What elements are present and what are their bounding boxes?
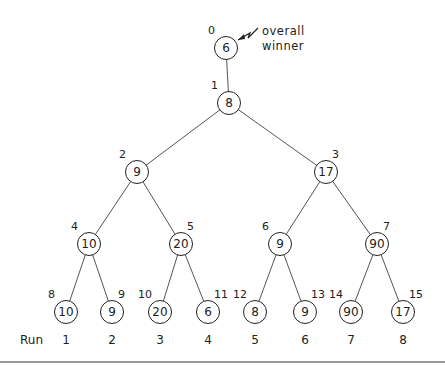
arrowhead-icon: [238, 34, 245, 40]
run-label: 7: [347, 333, 355, 347]
run-label: 4: [204, 333, 212, 347]
tree-node-10: 20: [148, 300, 172, 324]
node-index-label: 8: [48, 288, 55, 301]
annotation-line-1: overall: [262, 24, 305, 39]
tree-node-11: 6: [196, 300, 220, 324]
tree-node-9: 9: [100, 300, 124, 324]
run-title: Run: [20, 333, 43, 347]
tree-node-4: 10: [77, 232, 101, 256]
tree-node-5: 20: [169, 232, 193, 256]
tree-node-2: 9: [125, 160, 149, 184]
node-index-label: 7: [383, 220, 390, 233]
tree-node-13: 9: [293, 300, 317, 324]
run-label: 5: [251, 333, 259, 347]
run-label: 3: [156, 333, 164, 347]
node-index-label: 14: [329, 288, 343, 301]
node-index-label: 0: [208, 24, 215, 37]
tree-node-0: 6: [214, 36, 238, 60]
tree-node-1: 8: [217, 91, 241, 115]
node-index-label: 9: [118, 288, 125, 301]
tree-edge: [229, 103, 326, 172]
tree-node-12: 8: [243, 300, 267, 324]
node-index-label: 6: [262, 220, 269, 233]
tree-node-8: 10: [54, 300, 78, 324]
node-index-label: 12: [233, 288, 247, 301]
node-index-label: 5: [187, 220, 194, 233]
run-label: 6: [301, 333, 309, 347]
run-label: 1: [62, 333, 70, 347]
node-index-label: 13: [311, 288, 325, 301]
tree-edge: [137, 103, 229, 172]
run-label: 8: [399, 333, 407, 347]
tree-node-3: 17: [314, 160, 338, 184]
tree-node-7: 90: [365, 232, 389, 256]
tree-edge: [89, 172, 137, 244]
run-label: 2: [108, 333, 116, 347]
node-index-label: 4: [71, 220, 78, 233]
overall-winner-annotation: overall winner: [262, 24, 305, 54]
node-index-label: 11: [214, 288, 228, 301]
node-index-label: 3: [332, 148, 339, 161]
annotation-line-2: winner: [262, 39, 305, 54]
node-index-label: 2: [119, 148, 126, 161]
tree-node-15: 17: [391, 300, 415, 324]
node-index-label: 1: [211, 79, 218, 92]
node-index-label: 15: [409, 288, 423, 301]
node-index-label: 10: [138, 288, 152, 301]
tournament-tree-diagram: overall winner Run 608192173104205969071…: [0, 0, 445, 366]
tree-node-14: 90: [339, 300, 363, 324]
divider-line: [0, 361, 445, 363]
tree-node-6: 9: [268, 232, 292, 256]
